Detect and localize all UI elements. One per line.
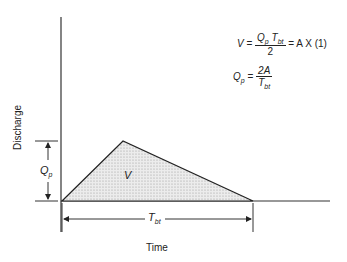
x-axis-label: Time xyxy=(146,242,168,253)
base-label: Tbt xyxy=(148,211,161,225)
equation-peak: Qp = 2ATbt xyxy=(233,65,272,90)
area-label: V xyxy=(124,169,131,181)
hydrograph-triangle xyxy=(62,141,253,201)
peak-label: Qp xyxy=(40,164,52,178)
equation-volume: V = Qp Tbt2 = A X (1) xyxy=(237,32,327,57)
y-axis-label: Discharge xyxy=(12,105,23,150)
